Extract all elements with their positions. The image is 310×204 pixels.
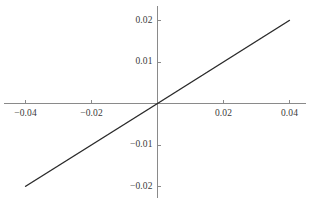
y-tick-label: −0.02 — [130, 182, 152, 192]
axes-group — [4, 6, 306, 198]
x-tick-label: 0.02 — [215, 109, 232, 119]
x-tick-label: 0.04 — [281, 109, 298, 119]
chart-figure: −0.04−0.020.020.04−0.02−0.010.010.02 — [0, 0, 310, 204]
x-tick-label: −0.04 — [14, 109, 36, 119]
y-tick-label: −0.01 — [130, 140, 152, 150]
x-tick-label: −0.02 — [80, 109, 102, 119]
y-tick-label: 0.02 — [135, 16, 152, 26]
chart-canvas — [0, 0, 310, 204]
y-tick-label: 0.01 — [135, 57, 152, 67]
